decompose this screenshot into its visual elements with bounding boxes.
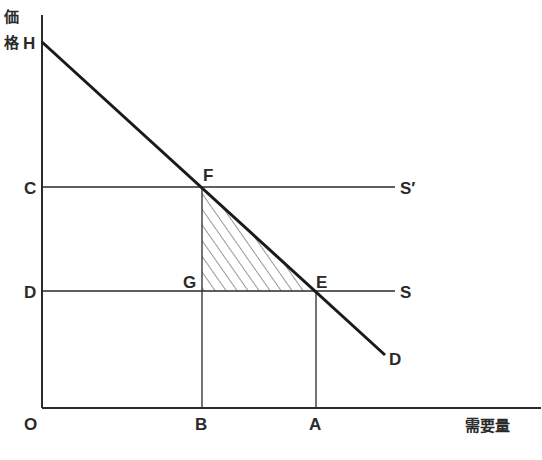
curve-label-supply: S <box>400 283 411 302</box>
demand-supply-diagram: 価 格 H C D F G E O B A S′ S D 需要量 <box>0 0 542 460</box>
y-axis-label-2: 格 <box>4 34 20 52</box>
point-label-E: E <box>316 273 327 292</box>
x-axis-label: 需要量 <box>465 417 510 435</box>
origin-label: O <box>24 415 37 434</box>
point-label-G: G <box>183 273 196 292</box>
curve-label-supply-shifted: S′ <box>400 179 415 198</box>
point-label-D-price: D <box>24 283 36 302</box>
point-label-C: C <box>24 179 36 198</box>
point-label-H: H <box>23 34 35 53</box>
curve-label-demand: D <box>389 350 401 369</box>
point-label-F: F <box>203 166 213 185</box>
point-label-A: A <box>309 415 321 434</box>
point-label-B: B <box>195 415 207 434</box>
demand-line <box>42 42 385 355</box>
y-axis-label-1: 価 <box>3 8 19 26</box>
